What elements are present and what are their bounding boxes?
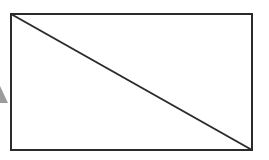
rectangle-diagonal-diagram <box>0 0 269 160</box>
figure-canvas: Rectangle with diagonal A horizontal rec… <box>0 0 269 160</box>
